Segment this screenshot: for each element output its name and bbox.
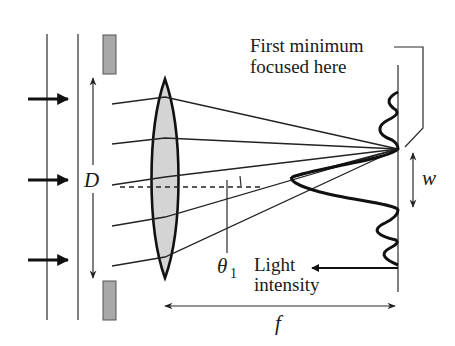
label-theta-subscript: 1 bbox=[230, 266, 237, 281]
aperture-dimension: D bbox=[83, 78, 99, 278]
label-first-minimum-line1: First minimum bbox=[250, 35, 364, 56]
label-light: Light bbox=[254, 254, 296, 275]
width-dimension: w bbox=[413, 153, 436, 207]
label-first-minimum-line2: focused here bbox=[250, 56, 347, 77]
intensity-profile bbox=[292, 92, 398, 265]
label-f: f bbox=[275, 311, 284, 335]
wavefronts bbox=[47, 34, 78, 320]
aperture-top-block bbox=[103, 35, 116, 74]
label-D: D bbox=[83, 168, 99, 192]
label-theta: θ bbox=[217, 254, 227, 278]
aperture-bottom-block bbox=[103, 281, 116, 320]
focal-length-dimension: f bbox=[165, 306, 395, 335]
angle-tick bbox=[240, 176, 241, 186]
label-intensity: intensity bbox=[254, 274, 320, 295]
diffraction-diagram: D θ 1 w First minimum focused here Light… bbox=[0, 0, 455, 346]
label-w: w bbox=[422, 166, 436, 190]
incoming-light-arrows bbox=[28, 99, 68, 260]
